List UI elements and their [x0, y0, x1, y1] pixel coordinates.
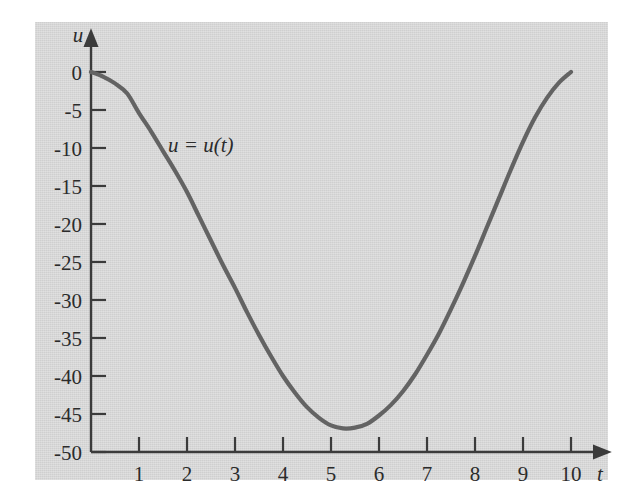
- x-tick-label: 8: [470, 462, 481, 486]
- x-tick-label: 9: [518, 462, 529, 486]
- x-tick-label: 7: [422, 462, 433, 486]
- x-axis-label: t: [597, 462, 604, 486]
- x-tick-label: 3: [230, 462, 241, 486]
- y-tick-label: -25: [54, 251, 82, 275]
- x-tick-label: 1: [134, 462, 145, 486]
- x-tick-labels: 1 2 3 4 5 6 7 8 9 10: [134, 462, 582, 486]
- x-tick-label: 2: [182, 462, 193, 486]
- y-tick-labels: 0 -5 -10 -15 -20 -25 -30 -35 -40 -45 -50: [54, 61, 82, 465]
- x-tick-label: 6: [374, 462, 385, 486]
- y-tick-label: -20: [54, 213, 82, 237]
- figure-canvas: 0 -5 -10 -15 -20 -25 -30 -35 -40 -45 -50…: [0, 0, 640, 497]
- curve-annotation-label: u = u(t): [168, 133, 234, 157]
- x-axis: [91, 437, 595, 452]
- y-tick-label: -10: [54, 137, 82, 161]
- y-tick-label: -30: [54, 289, 82, 313]
- x-tick-label: 5: [326, 462, 337, 486]
- y-tick-label: -5: [65, 99, 83, 123]
- x-tick-label: 4: [278, 462, 289, 486]
- y-axis-label: u: [73, 23, 84, 47]
- y-tick-label: -40: [54, 365, 82, 389]
- plot-svg: 0 -5 -10 -15 -20 -25 -30 -35 -40 -45 -50…: [0, 0, 640, 497]
- y-tick-label: 0: [72, 61, 83, 85]
- y-tick-label: -50: [54, 441, 82, 465]
- y-axis: [91, 45, 106, 452]
- x-tick-label: 10: [561, 462, 582, 486]
- y-tick-label: -35: [54, 327, 82, 351]
- data-curve: [91, 72, 571, 429]
- y-tick-label: -15: [54, 175, 82, 199]
- y-tick-label: -45: [54, 403, 82, 427]
